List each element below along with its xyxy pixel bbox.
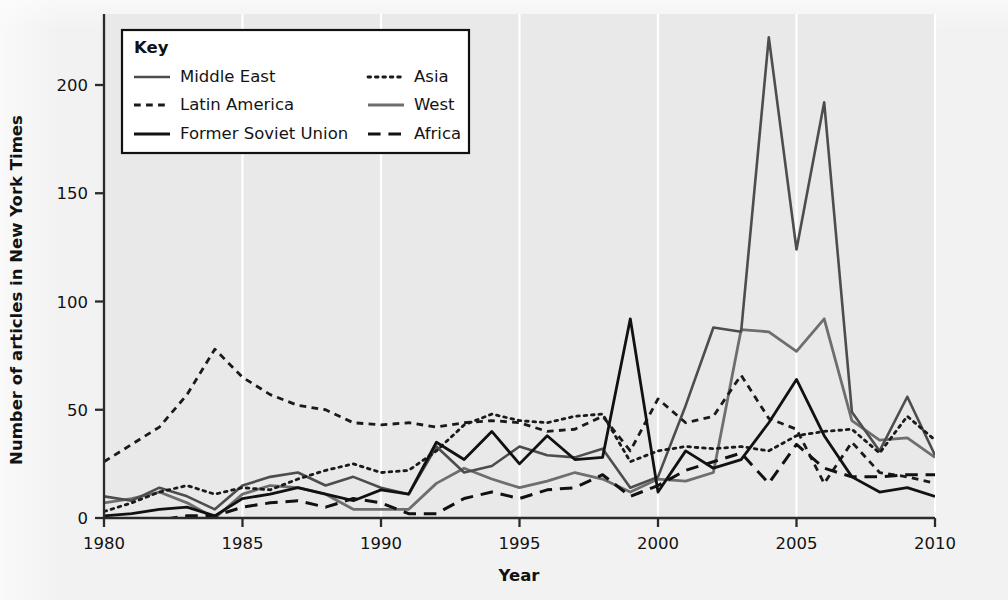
legend-label-asia: Asia bbox=[414, 67, 449, 86]
x-tick-label-1995: 1995 bbox=[499, 534, 541, 553]
y-tick-label-50: 50 bbox=[67, 401, 88, 420]
x-axis-title: Year bbox=[498, 566, 541, 585]
line-chart: 1980198519901995200020052010050100150200… bbox=[0, 0, 1008, 600]
legend-label-latin-america: Latin America bbox=[180, 95, 294, 114]
legend-label-former-soviet-union: Former Soviet Union bbox=[180, 124, 348, 143]
y-tick-label-150: 150 bbox=[57, 184, 89, 203]
y-tick-label-0: 0 bbox=[78, 509, 89, 528]
y-tick-label-200: 200 bbox=[57, 76, 89, 95]
x-tick-label-1980: 1980 bbox=[83, 534, 125, 553]
chart-figure: 1980198519901995200020052010050100150200… bbox=[0, 0, 1008, 600]
legend-label-west: West bbox=[414, 95, 455, 114]
legend[interactable]: Key Middle EastAsiaLatin AmericaWestForm… bbox=[122, 30, 469, 153]
x-tick-label-2005: 2005 bbox=[776, 534, 818, 553]
legend-label-africa: Africa bbox=[414, 124, 461, 143]
legend-title: Key bbox=[134, 38, 169, 57]
x-tick-label-1985: 1985 bbox=[222, 534, 264, 553]
x-tick-label-2000: 2000 bbox=[637, 534, 679, 553]
x-tick-label-1990: 1990 bbox=[360, 534, 402, 553]
legend-label-middle-east: Middle East bbox=[180, 67, 276, 86]
y-tick-label-100: 100 bbox=[57, 293, 89, 312]
x-tick-label-2010: 2010 bbox=[914, 534, 956, 553]
y-axis-title: Number of articles in New York Times bbox=[7, 115, 26, 465]
